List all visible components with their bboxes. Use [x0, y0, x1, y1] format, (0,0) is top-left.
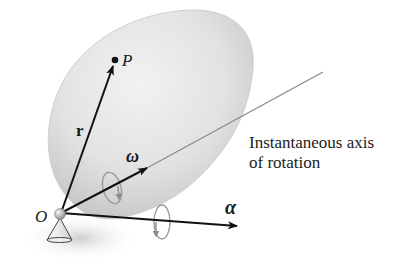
point-p-dot — [112, 57, 119, 64]
label-alpha: α — [225, 196, 237, 218]
caption-line-1: Instantaneous axis — [249, 133, 374, 153]
label-p: P — [121, 51, 132, 70]
label-omega: ω — [126, 146, 139, 166]
alpha-rotation-indicator — [154, 205, 170, 239]
label-r: r — [76, 121, 84, 140]
pivot-ball — [55, 209, 66, 220]
caption-line-2: of rotation — [249, 153, 374, 173]
rigid-body — [48, 10, 253, 219]
instantaneous-axis-caption: Instantaneous axis of rotation — [249, 133, 374, 173]
label-origin: O — [35, 207, 47, 226]
